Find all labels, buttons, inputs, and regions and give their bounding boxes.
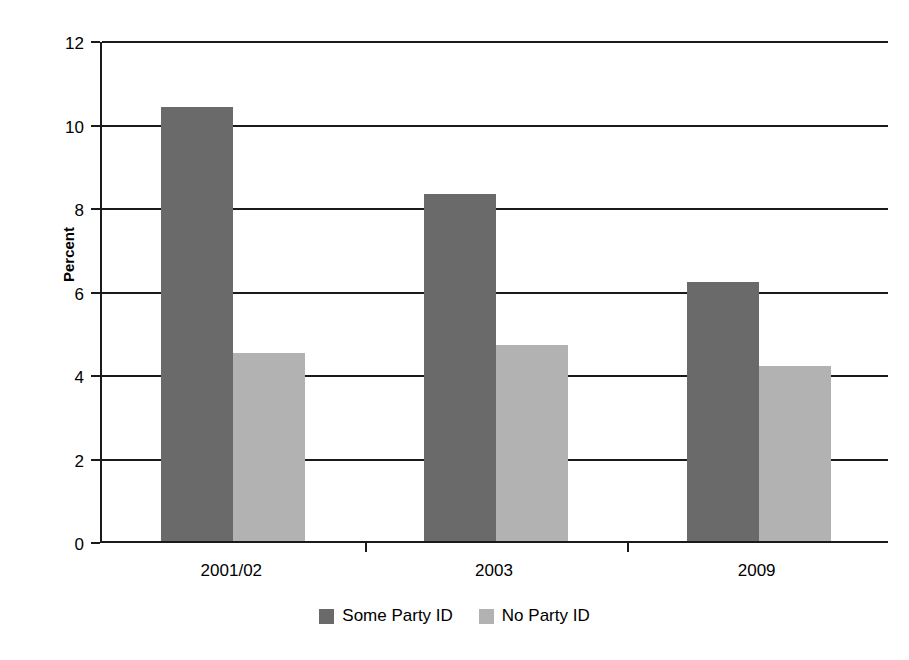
y-axis-tick: 0 — [91, 542, 100, 544]
legend-label: No Party ID — [502, 606, 590, 626]
bar — [424, 194, 496, 541]
plot-area: 024681012 — [100, 42, 888, 543]
bar — [233, 353, 305, 541]
legend-item: Some Party ID — [319, 606, 453, 626]
y-axis-tick: 2 — [91, 459, 100, 461]
x-axis-label: 2003 — [475, 561, 513, 581]
bar — [759, 366, 831, 541]
bar — [496, 345, 568, 541]
x-axis-label: 2001/02 — [201, 561, 262, 581]
bar — [161, 107, 233, 541]
legend-swatch-icon — [319, 609, 334, 624]
y-axis-tick: 10 — [91, 125, 100, 127]
x-axis-tick — [627, 541, 629, 552]
chart-legend: Some Party IDNo Party ID — [0, 606, 909, 626]
legend-label: Some Party ID — [342, 606, 453, 626]
y-axis-tick-label: 2 — [75, 452, 84, 469]
y-axis-tick-label: 8 — [75, 202, 84, 219]
x-axis-tick — [365, 541, 367, 552]
y-axis-tick: 8 — [91, 208, 100, 210]
x-axis-labels: 2001/0220032009 — [100, 561, 888, 587]
y-axis-tick-label: 10 — [65, 118, 84, 135]
y-axis-tick: 6 — [91, 292, 100, 294]
y-axis-tick-label: 6 — [75, 285, 84, 302]
y-axis-tick-label: 12 — [65, 35, 84, 52]
legend-swatch-icon — [479, 609, 494, 624]
bar — [687, 282, 759, 541]
legend-item: No Party ID — [479, 606, 590, 626]
x-axis-label: 2009 — [738, 561, 776, 581]
y-axis-tick: 12 — [91, 41, 100, 43]
y-axis-tick-label: 4 — [75, 369, 84, 386]
y-axis-tick: 4 — [91, 375, 100, 377]
bar-chart: Percent 024681012 2001/0220032009 Some P… — [0, 0, 909, 660]
y-axis-tick-label: 0 — [75, 536, 84, 553]
bars-layer — [102, 42, 888, 541]
